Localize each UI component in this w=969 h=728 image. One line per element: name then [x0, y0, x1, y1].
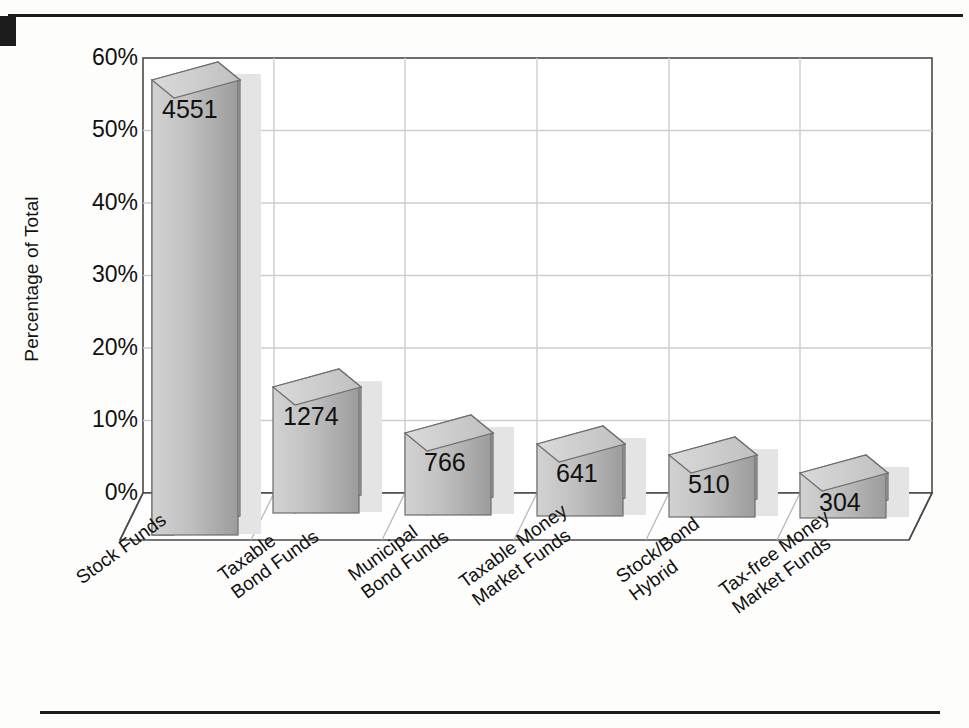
bar-value-label: 641	[556, 461, 598, 486]
bar-value-label: 510	[688, 472, 730, 497]
bar-value-label: 4551	[162, 97, 218, 122]
bar-stock-funds[interactable]	[152, 62, 261, 535]
bar-value-label: 1274	[283, 404, 339, 429]
bar-chart: Percentage of Total 60% 50% 40% 30% 20% …	[0, 0, 969, 728]
plot-area	[0, 0, 969, 728]
bar-value-label: 766	[424, 450, 466, 475]
bar-taxable-bond-funds[interactable]	[273, 369, 382, 513]
chart-page: Percentage of Total 60% 50% 40% 30% 20% …	[0, 0, 969, 728]
